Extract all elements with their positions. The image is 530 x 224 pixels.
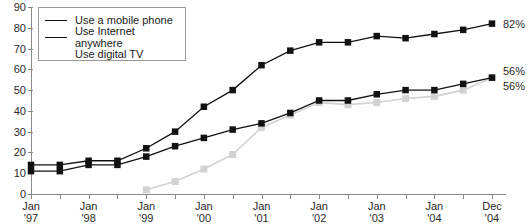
data-point-marker	[172, 143, 179, 150]
data-point-marker	[201, 103, 208, 110]
legend-line-icon	[45, 20, 67, 21]
data-point-marker	[373, 99, 380, 106]
legend-item-digital-tv[interactable]: Use digital TV	[45, 47, 143, 61]
data-point-marker	[287, 47, 294, 54]
data-point-marker	[172, 128, 179, 135]
end-label-internet-anywhere: 56%	[503, 65, 525, 77]
data-point-marker	[143, 153, 150, 160]
data-point-marker	[489, 20, 496, 27]
data-point-marker	[460, 81, 467, 88]
data-point-marker	[374, 91, 381, 98]
legend-square-marker-icon	[52, 17, 59, 24]
data-point-marker	[402, 87, 409, 94]
data-point-marker	[229, 126, 236, 133]
data-point-marker	[85, 158, 92, 165]
data-point-marker	[402, 35, 409, 42]
data-point-marker	[345, 97, 352, 104]
data-point-marker	[114, 158, 121, 165]
data-point-marker	[287, 110, 294, 117]
data-point-marker	[431, 31, 438, 37]
data-point-marker	[258, 120, 265, 127]
data-point-marker	[172, 178, 179, 185]
data-point-marker	[258, 62, 265, 69]
end-label-digital-tv: 56%	[503, 80, 525, 92]
data-point-marker	[316, 39, 323, 46]
end-label-mobile-phone: 82%	[503, 18, 525, 30]
data-point-marker	[143, 186, 150, 193]
data-point-marker	[229, 151, 236, 158]
data-point-marker	[489, 74, 496, 81]
legend-item-internet-anywhere[interactable]: Use Internet anywhere	[45, 30, 185, 44]
data-point-marker	[143, 145, 150, 152]
data-point-marker	[316, 97, 323, 104]
legend-line-icon	[45, 37, 67, 38]
data-point-marker	[28, 162, 35, 169]
data-point-marker	[345, 39, 352, 46]
line-chart: 0102030405060708090 Jan'97Jan'98Jan'99Ja…	[0, 0, 530, 224]
data-point-marker	[200, 166, 207, 173]
legend-square-marker-icon	[52, 51, 59, 58]
data-point-marker	[431, 93, 438, 100]
data-point-marker	[28, 168, 35, 175]
data-point-marker	[229, 87, 236, 94]
data-point-marker	[201, 135, 208, 142]
series-line-2	[146, 78, 492, 190]
legend-label: Use digital TV	[75, 48, 143, 60]
data-point-marker	[402, 95, 409, 102]
legend-label: Use Internet anywhere	[75, 25, 185, 49]
data-point-marker	[431, 87, 438, 94]
legend-square-marker-icon	[52, 34, 59, 41]
data-point-marker	[460, 27, 467, 33]
data-point-marker	[460, 87, 467, 94]
data-point-marker	[374, 33, 381, 40]
data-point-marker	[57, 162, 64, 169]
legend: Use a mobile phone Use Internet anywhere…	[38, 7, 186, 61]
data-point-marker	[57, 168, 64, 175]
